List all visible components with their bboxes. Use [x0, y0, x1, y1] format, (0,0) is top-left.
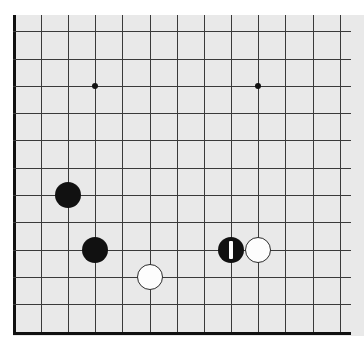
grid-line-horizontal-1 [13, 59, 351, 60]
grid-line-horizontal-7 [13, 222, 351, 223]
board-bottom-border [13, 332, 351, 335]
grid-line-vertical-1 [41, 15, 42, 334]
board-left-border [13, 15, 16, 334]
white-stone-lower-center[interactable] [137, 264, 163, 290]
black-stone-upper-left[interactable] [55, 182, 81, 208]
grid-line-horizontal-10 [13, 304, 351, 305]
grid-line-vertical-4 [122, 15, 123, 334]
grid-line-horizontal-3 [13, 113, 351, 114]
star-point-right-icon [255, 83, 261, 89]
last-move-marker-icon [229, 241, 233, 259]
grid-line-vertical-11 [313, 15, 314, 334]
grid-line-horizontal-2 [13, 86, 351, 87]
go-board[interactable] [0, 0, 364, 351]
grid-line-vertical-3 [95, 15, 96, 334]
grid-line-vertical-6 [177, 15, 178, 334]
grid-line-horizontal-4 [13, 140, 351, 141]
grid-line-horizontal-0 [13, 31, 351, 32]
grid-line-horizontal-9 [13, 277, 351, 278]
grid-line-horizontal-5 [13, 168, 351, 169]
grid-line-vertical-7 [204, 15, 205, 334]
black-stone-lower-left[interactable] [82, 237, 108, 263]
white-stone-right[interactable] [245, 237, 271, 263]
grid-line-vertical-8 [231, 15, 232, 334]
grid-line-vertical-9 [258, 15, 259, 334]
grid-line-horizontal-8 [13, 250, 351, 251]
star-point-left-icon [92, 83, 98, 89]
grid-line-vertical-10 [285, 15, 286, 334]
grid-line-vertical-2 [68, 15, 69, 334]
board-surface[interactable] [13, 15, 364, 336]
grid-line-vertical-12 [340, 15, 341, 334]
black-stone-marked-right[interactable] [218, 237, 244, 263]
